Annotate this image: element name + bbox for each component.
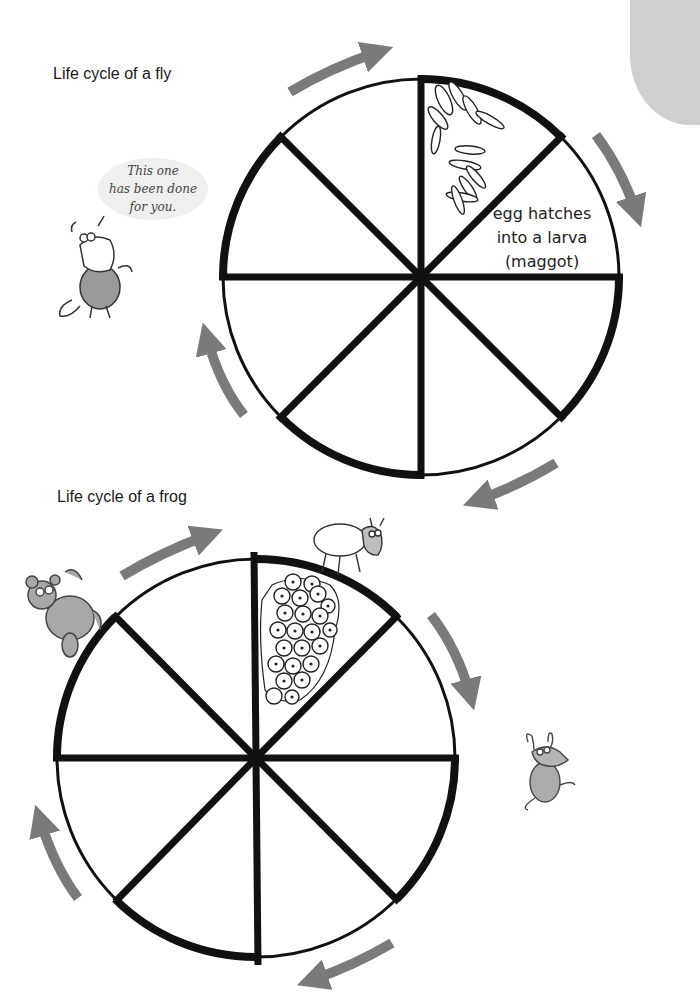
- speech-bubble-line: has been done: [98, 180, 208, 198]
- arrow-icon: [312, 943, 392, 980]
- fly-cycle-wheel: [219, 75, 623, 479]
- cow-icon: [60, 216, 132, 318]
- label-line: egg hatches: [487, 202, 597, 226]
- rat-icon: [525, 733, 575, 810]
- sheep-icon: [314, 518, 384, 575]
- fly-segment-2-label: egg hatches into a larva (maggot): [487, 202, 597, 274]
- speech-bubble-line: This one: [98, 162, 208, 180]
- label-line: into a larva: [487, 226, 597, 250]
- frog-cycle-wheel: [53, 552, 459, 965]
- speech-bubble-text: This one has been done for you.: [98, 162, 208, 216]
- arrow-icon: [478, 463, 556, 500]
- label-line: (maggot): [487, 250, 597, 274]
- speech-bubble-line: for you.: [98, 198, 208, 216]
